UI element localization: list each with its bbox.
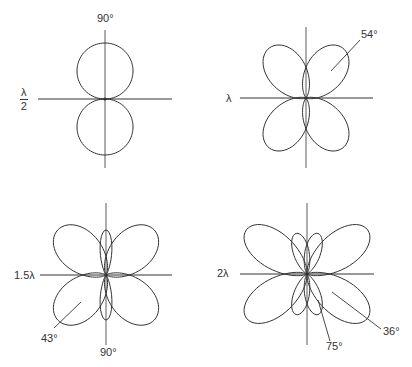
radiation-lobe bbox=[263, 97, 309, 151]
radiation-lobe bbox=[53, 273, 107, 325]
angle-label-90-half-wave: 90° bbox=[97, 13, 114, 24]
pattern-full-wave bbox=[240, 27, 373, 168]
angle-label-36-two-wave: 36° bbox=[383, 326, 400, 337]
origin-dot bbox=[104, 273, 107, 276]
pattern-one-and-half-wave bbox=[40, 203, 172, 345]
radiation-lobe bbox=[307, 272, 370, 323]
radiation-lobe bbox=[303, 45, 349, 99]
radiation-lobe bbox=[307, 225, 370, 276]
pattern-two-wave bbox=[240, 203, 381, 345]
origin-dot bbox=[305, 272, 308, 275]
label-one-and-half-wave-length: 1.5λ bbox=[14, 270, 35, 281]
radiation-lobe bbox=[104, 273, 158, 325]
radiation-lobe bbox=[53, 225, 107, 277]
leader-line bbox=[318, 300, 330, 341]
angle-label-54-full-wave: 54° bbox=[361, 29, 378, 40]
angle-label-75-two-wave: 75° bbox=[326, 341, 343, 352]
radiation-lobe bbox=[244, 272, 307, 323]
radiation-patterns-canvas bbox=[0, 0, 412, 367]
pattern-half-wave bbox=[38, 30, 172, 168]
radiation-lobe bbox=[263, 45, 309, 99]
label-fraction-numerator: λ bbox=[20, 87, 28, 100]
angle-label-90-one-and-half-wave: 90° bbox=[100, 347, 117, 358]
radiation-lobe bbox=[244, 225, 307, 276]
label-full-wave-length: λ bbox=[226, 93, 232, 104]
radiation-lobe bbox=[303, 97, 349, 151]
label-half-wave-length: λ 2 bbox=[20, 87, 28, 112]
label-two-wave-length: 2λ bbox=[217, 268, 229, 279]
angle-label-43-one-and-half-wave: 43° bbox=[41, 333, 58, 344]
origin-dot bbox=[304, 96, 307, 99]
radiation-lobe bbox=[104, 225, 158, 277]
origin-dot bbox=[103, 97, 106, 100]
label-fraction-denominator: 2 bbox=[20, 100, 28, 112]
